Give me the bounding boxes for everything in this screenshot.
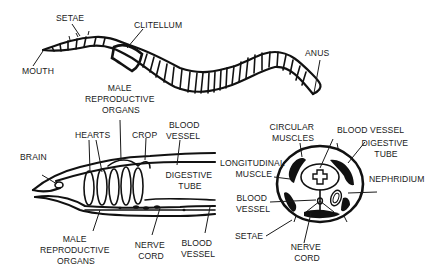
- label-anus: ANUS: [305, 48, 329, 58]
- label-blood-vessel-cs-top: BLOOD VESSEL: [337, 125, 404, 135]
- leader-mouth: [33, 51, 43, 66]
- label-nerve-cord-cs: NERVE CORD: [291, 242, 323, 263]
- earthworm-diagram: SETAE CLITELLUM MOUTH ANUS: [0, 0, 445, 278]
- label-clitellum: CLITELLUM: [134, 20, 182, 30]
- label-brain: BRAIN: [20, 152, 47, 162]
- label-mouth: MOUTH: [22, 66, 54, 76]
- label-blood-vessel-cs-left: BLOOD VESSEL: [236, 193, 270, 214]
- label-setae-cs: SETAE: [235, 231, 263, 241]
- hearts: [84, 167, 143, 205]
- label-nerve-cord: NERVE CORD: [135, 240, 167, 261]
- label-digestive-tube: DIGESTIVE TUBE: [165, 170, 214, 191]
- label-blood-vessel-bottom: BLOOD VESSEL: [181, 238, 215, 259]
- leader-nerve-cord-cs: [304, 213, 311, 243]
- cross-section: CIRCULAR MUSCLES BLOOD VESSEL DIGESTIVE …: [220, 122, 424, 263]
- label-setae: SETAE: [56, 13, 84, 23]
- cs-nephridium: [329, 189, 344, 207]
- diagram-canvas: SETAE CLITELLUM MOUTH ANUS: [0, 0, 445, 278]
- leader-clitellum: [127, 29, 143, 48]
- label-male-repro-bottom: MALE REPRODUCTIVE ORGANS: [40, 234, 112, 266]
- leader-hearts-b: [96, 140, 102, 172]
- brain: [55, 182, 63, 188]
- ls-gut-floor: [145, 199, 215, 200]
- label-hearts: HEARTS: [75, 130, 110, 140]
- leader-hearts-a: [89, 140, 90, 172]
- leader-blood-vessel-cs-top: [320, 139, 333, 168]
- leader-setae: [72, 24, 80, 36]
- label-male-repro-top: MALE REPRODUCTIVE ORGANS: [85, 83, 157, 115]
- label-digestive-tube-cs: DIGESTIVE TUBE: [361, 138, 410, 159]
- label-nephridium: NEPHRIDIUM: [369, 174, 424, 184]
- label-circular-muscles: CIRCULAR MUSCLES: [269, 122, 316, 143]
- leader-male-repro-top: [120, 120, 121, 160]
- label-crop: CROP: [132, 130, 157, 140]
- leader-setae-cs: [266, 220, 292, 236]
- leader-nerve-cord: [152, 208, 160, 235]
- leader-blood-vessel-bottom: [205, 207, 210, 233]
- label-blood-vessel-top: BLOOD VESSEL: [166, 120, 202, 141]
- longitudinal-section: MALE REPRODUCTIVE ORGANS HEARTS CROP BLO…: [20, 83, 215, 266]
- ls-mouth-lip: [33, 188, 60, 191]
- worm-external-view: SETAE CLITELLUM MOUTH ANUS: [22, 13, 329, 94]
- leader-nephridium: [348, 192, 377, 193]
- cs-nephridium-inner: [332, 192, 340, 203]
